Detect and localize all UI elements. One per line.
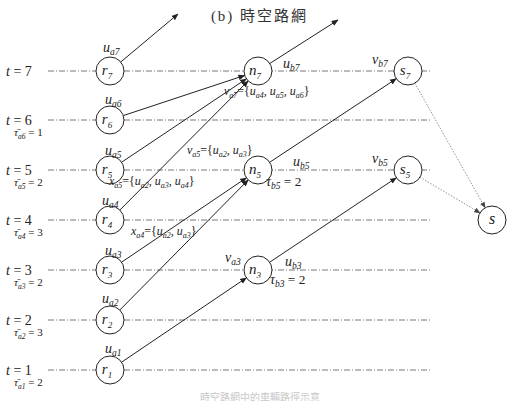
label-u_b3: ub3	[285, 254, 302, 271]
tau-label-a1: τ̄a1 = 2	[14, 376, 43, 391]
edge-r2-n5	[120, 180, 248, 310]
node-s5: s5	[394, 156, 422, 184]
label-v_b5: vb5	[372, 151, 388, 168]
node-n7: n7	[244, 57, 272, 85]
tau-label-a4: τ̄a4 = 3	[14, 226, 43, 241]
diagram-title: (b) 時空路網	[0, 4, 519, 25]
label-u_b7: ub7	[283, 56, 301, 73]
node-r2: r2	[96, 306, 124, 334]
node-r4: r4	[96, 206, 124, 234]
label-u_a1: ua1	[105, 341, 122, 358]
edge-n7-out	[270, 20, 338, 63]
node-n3: n3	[244, 256, 272, 284]
edge-labels: ua7ua6ua5ua4ua3ua2ua1ub7ub5ub3vb7vb5va3τ…	[102, 40, 389, 358]
network-canvas: t = 7t = 6t = 5t = 4t = 3t = 2t = 1τ̄a6 …	[0, 0, 519, 401]
figure-caption: 時空路網中的車輛路徑示意圖	[200, 389, 320, 401]
tau-label-a6: τ̄a6 = 1	[14, 126, 43, 141]
label-tau_b3: τb3 = 2	[270, 272, 305, 289]
nodes: r7r6r5r4r3r2r1n7n5n3s7s5s	[96, 57, 506, 384]
set-label-v_a5: va5={ua2, ua3}	[187, 143, 253, 159]
node-r3: r3	[96, 256, 124, 284]
label-v_b7: vb7	[372, 52, 389, 69]
set-label-v_a7: va7={ua4, ua5, ua6}	[224, 84, 310, 100]
label-u_a5: ua5	[105, 143, 122, 160]
edges	[120, 14, 485, 362]
tau-label-a5: τ̄a5 = 2	[14, 176, 43, 191]
label-u_a6: ua6	[105, 92, 122, 109]
time-label-t7: t = 7	[6, 64, 32, 79]
label-v_a3: va3	[225, 250, 241, 267]
label-tau_b5: τb5 = 2	[266, 174, 301, 191]
node-s7: s7	[394, 57, 422, 85]
tau-label-a2: τ̄a2 = 3	[14, 326, 43, 341]
label-u_a3: ua3	[105, 243, 122, 260]
node-r7: r7	[96, 57, 124, 85]
node-S: s	[478, 206, 506, 234]
time-space-network-diagram: (b) 時空路網 t = 7t = 6t = 5t = 4t = 3t = 2t…	[0, 0, 519, 401]
edge-s7-S	[415, 83, 485, 208]
label-u_b5: ub5	[293, 154, 310, 171]
label-u_a4: ua4	[102, 193, 119, 210]
node-r1: r1	[96, 356, 124, 384]
label-u_a2: ua2	[102, 291, 119, 308]
time-rows: t = 7t = 6t = 5t = 4t = 3t = 2t = 1τ̄a6 …	[6, 64, 430, 391]
tau-label-a3: τ̄a3 = 2	[14, 276, 43, 291]
set-label-x_a4: xa4={ua2, ua3}	[130, 224, 197, 240]
node-r6: r6	[96, 106, 124, 134]
node-label: s	[489, 210, 495, 227]
label-u_a7: ua7	[103, 40, 121, 57]
